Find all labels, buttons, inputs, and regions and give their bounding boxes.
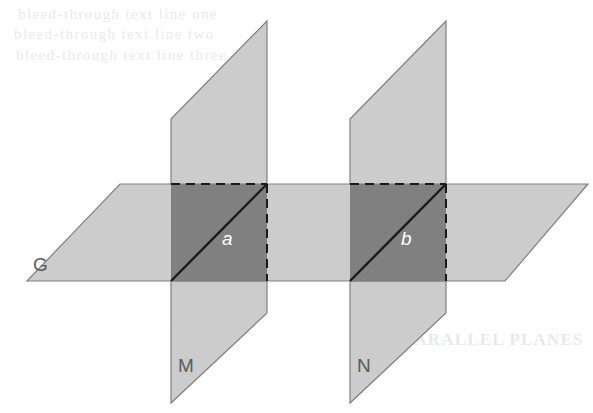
plane-m-lower-shape	[171, 281, 267, 403]
plane-n-label: N	[357, 355, 371, 376]
planes-diagram-svg: G M N a b	[0, 0, 593, 413]
plane-m-label: M	[178, 355, 194, 376]
line-a-label: a	[222, 228, 233, 249]
plane-m-upper-shape	[171, 21, 267, 184]
geometry-figure: bleed-through text line one bleed-throug…	[0, 0, 593, 413]
line-b-label: b	[401, 228, 412, 249]
plane-n-lower-shape	[350, 281, 446, 403]
plane-n-upper-shape	[350, 21, 446, 184]
plane-g-shape	[27, 184, 588, 281]
plane-g-label: G	[33, 254, 48, 275]
